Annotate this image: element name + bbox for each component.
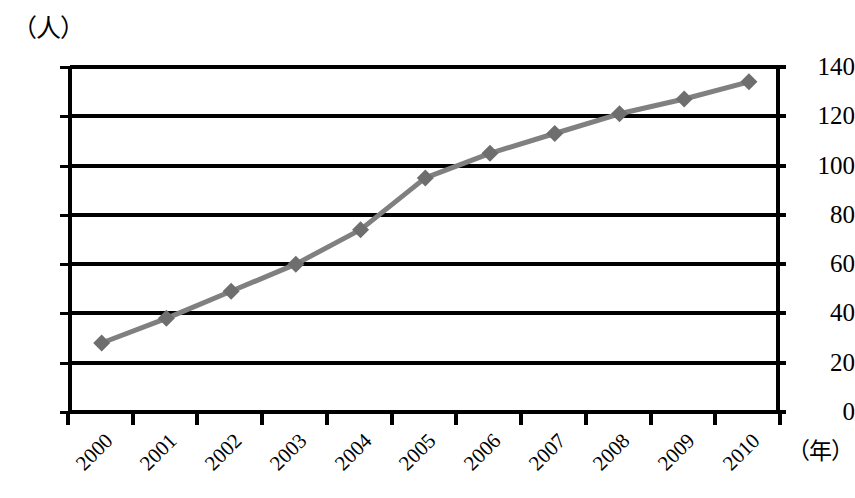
x-tick-mark-11 — [778, 412, 782, 425]
y-tick-label-120: 120 — [793, 103, 855, 128]
x-tick-mark-10 — [713, 412, 717, 425]
y-tick-label-20: 20 — [793, 350, 855, 375]
x-tick-label-2001: 2001 — [127, 430, 181, 484]
y-tick-label-100: 100 — [793, 153, 855, 178]
gridline-20 — [70, 361, 786, 365]
x-tick-mark-9 — [649, 412, 653, 425]
x-tick-mark-7 — [519, 412, 523, 425]
x-tick-label-2003: 2003 — [256, 430, 310, 484]
x-tick-label-2010: 2010 — [709, 430, 763, 484]
line-chart: （人） 020406080100120140 20002001200220032… — [0, 0, 855, 498]
x-axis-unit-label: （年） — [787, 432, 853, 466]
x-tick-mark-8 — [584, 412, 588, 425]
x-tick-label-2002: 2002 — [192, 430, 246, 484]
x-tick-label-2009: 2009 — [645, 430, 699, 484]
x-tick-mark-4 — [325, 412, 329, 425]
y-tick-label-0: 0 — [793, 399, 855, 424]
x-tick-label-2008: 2008 — [580, 430, 634, 484]
x-tick-mark-2 — [195, 412, 199, 425]
x-tick-mark-5 — [390, 412, 394, 425]
x-tick-label-2006: 2006 — [450, 430, 504, 484]
x-tick-label-2000: 2000 — [62, 430, 116, 484]
y-tick-label-40: 40 — [793, 300, 855, 325]
x-tick-label-2005: 2005 — [386, 430, 440, 484]
plot-area — [68, 67, 780, 412]
y-axis-unit-label: （人） — [12, 8, 84, 44]
gridline-80 — [70, 213, 786, 217]
x-tick-label-2004: 2004 — [321, 430, 375, 484]
gridline-100 — [70, 164, 786, 168]
gridline-40 — [70, 311, 786, 315]
x-tick-mark-1 — [131, 412, 135, 425]
y-tick-label-80: 80 — [793, 202, 855, 227]
x-tick-mark-0 — [66, 412, 70, 425]
x-tick-label-2007: 2007 — [515, 430, 569, 484]
gridline-140 — [70, 65, 786, 69]
y-tick-label-60: 60 — [793, 251, 855, 276]
gridline-120 — [70, 114, 786, 118]
y-tick-label-140: 140 — [793, 54, 855, 79]
x-tick-mark-3 — [260, 412, 264, 425]
x-tick-mark-6 — [454, 412, 458, 425]
gridline-0 — [70, 410, 786, 414]
gridline-60 — [70, 262, 786, 266]
